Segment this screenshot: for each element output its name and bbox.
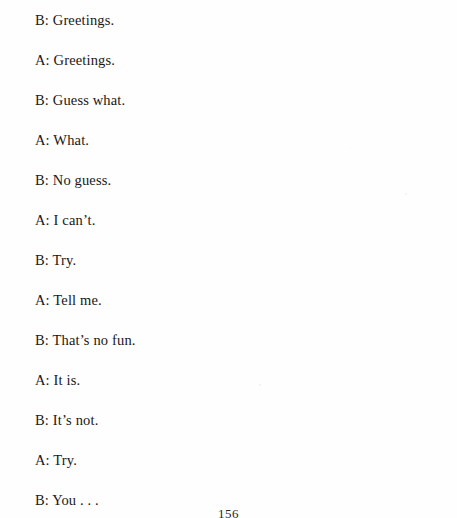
dialogue-block: B: Greetings. A: Greetings. B: Guess wha… <box>35 0 435 518</box>
dialogue-line: A: Greetings. <box>35 40 435 80</box>
dialogue-line: B: Guess what. <box>35 80 435 120</box>
scan-speck <box>349 148 350 149</box>
dialogue-line-text: A: What. <box>35 132 89 148</box>
page-number: 156 <box>0 506 457 518</box>
dialogue-line-text: B: That’s no fun. <box>35 332 136 348</box>
dialogue-line-text: A: I can’t. <box>35 212 96 228</box>
dialogue-line: B: That’s no fun. <box>35 320 435 360</box>
scan-speck <box>259 384 261 386</box>
dialogue-line: A: Try. <box>35 440 435 480</box>
dialogue-line-text: B: Guess what. <box>35 92 125 108</box>
dialogue-line-text: A: Try. <box>35 452 77 468</box>
dialogue-line: B: No guess. <box>35 160 435 200</box>
dialogue-line-text: B: It’s not. <box>35 412 98 428</box>
dialogue-line: A: It is. <box>35 360 435 400</box>
dialogue-line-text: B: Try. <box>35 252 76 268</box>
dialogue-line-text: B: No guess. <box>35 172 111 188</box>
scan-speck <box>405 193 407 195</box>
dialogue-line: B: Try. <box>35 240 435 280</box>
dialogue-line: A: What. <box>35 120 435 160</box>
dialogue-line: B: It’s not. <box>35 400 435 440</box>
dialogue-line: A: I can’t. <box>35 200 435 240</box>
dialogue-line-text: A: It is. <box>35 372 80 388</box>
dialogue-line: B: Greetings. <box>35 0 435 40</box>
dialogue-line-text: A: Tell me. <box>35 292 102 308</box>
dialogue-line-text: A: Greetings. <box>35 52 115 68</box>
dialogue-line: A: Tell me. <box>35 280 435 320</box>
book-page: B: Greetings. A: Greetings. B: Guess wha… <box>0 0 457 518</box>
dialogue-line-text: B: Greetings. <box>35 12 114 28</box>
